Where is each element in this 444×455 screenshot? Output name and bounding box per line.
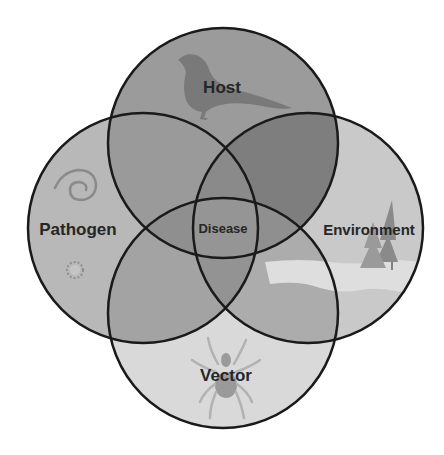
vector-label: Vector xyxy=(200,366,252,385)
host-label: Host xyxy=(203,78,241,97)
pathogen-label: Pathogen xyxy=(39,220,116,239)
environment-label: Environment xyxy=(323,221,415,238)
disease-venn-diagram: Host Pathogen Environment Vector Disease xyxy=(0,0,444,455)
disease-label: Disease xyxy=(198,221,247,236)
